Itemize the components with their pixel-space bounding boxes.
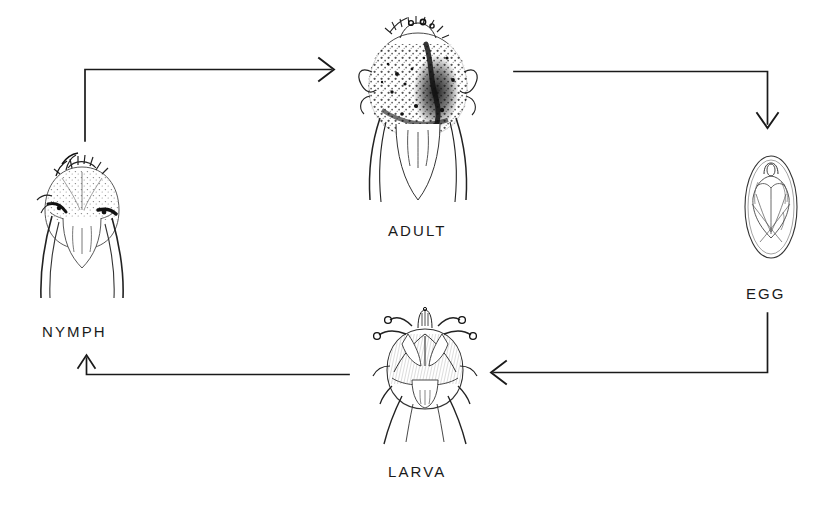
larva-tick-icon: [368, 304, 482, 446]
nymph-tick-icon: [32, 152, 134, 302]
stage-label-nymph: NYMPH: [42, 323, 107, 340]
stage-label-egg: EGG: [746, 285, 786, 302]
stage-label-adult: ADULT: [388, 222, 447, 239]
adult-tick-icon: [352, 14, 484, 212]
egg-icon: [740, 152, 802, 262]
arrow-egg-to-larva: [491, 313, 768, 384]
tick-life-cycle-diagram: ADULT: [0, 0, 831, 520]
stage-label-larva: LARVA: [388, 463, 446, 480]
arrow-larva-to-nymph: [78, 355, 349, 375]
arrow-nymph-to-adult: [85, 58, 334, 141]
arrow-adult-to-egg: [514, 72, 778, 129]
